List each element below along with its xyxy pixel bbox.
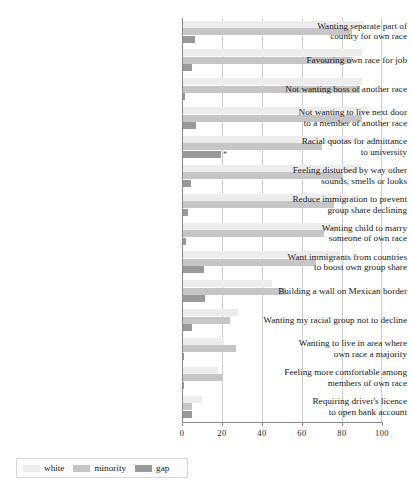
bar-white	[182, 309, 238, 316]
x-tick-label: 40	[257, 428, 266, 438]
bar-gap	[182, 64, 192, 71]
category-label: Feeling more comfortable among members o…	[235, 367, 411, 388]
bar-gap	[182, 151, 221, 158]
legend-swatch-minority-icon	[73, 465, 90, 472]
legend-item-minority: minority	[73, 463, 126, 473]
x-tick-mark	[262, 422, 263, 426]
bar-gap	[182, 180, 191, 187]
legend-item-gap: gap	[135, 463, 169, 473]
bar-gap	[182, 36, 195, 43]
bar-gap	[182, 324, 192, 331]
category-label: Favouring own race for job	[235, 55, 411, 66]
x-tick-mark	[342, 422, 343, 426]
y-axis-line	[182, 18, 183, 422]
bar-gap	[182, 295, 205, 302]
x-tick-mark	[222, 422, 223, 426]
legend-label-gap: gap	[156, 463, 169, 473]
legend: white minority gap	[16, 458, 188, 478]
bar-white	[182, 396, 202, 403]
legend-swatch-gap-icon	[135, 465, 152, 472]
category-label: Racial quotas for admittance to universi…	[235, 136, 411, 157]
category-label: Not wanting boss of another race	[235, 84, 411, 95]
x-tick-label: 100	[375, 428, 389, 438]
bar-gap	[182, 122, 196, 129]
category-label: Requiring driver's licence to open bank …	[235, 396, 411, 417]
legend-label-white: white	[44, 463, 64, 473]
gridline-100	[381, 18, 382, 422]
x-tick-mark	[382, 422, 383, 426]
category-label: Wanting separate part of country for own…	[235, 21, 411, 42]
x-tick-label: 80	[337, 428, 346, 438]
bar-minority	[182, 317, 230, 324]
category-label: Not wanting to live next door to a membe…	[235, 107, 411, 128]
legend-swatch-white-icon	[23, 465, 40, 472]
bar-minority	[182, 403, 192, 410]
category-label: Wanting my racial group not to decline	[235, 315, 411, 326]
bar-minority	[182, 374, 222, 381]
bar-gap	[182, 266, 204, 273]
legend-label-minority: minority	[94, 463, 126, 473]
bar-white	[182, 367, 218, 374]
category-label: Wanting to live in area where own race a…	[235, 338, 411, 359]
legend-item-white: white	[23, 463, 64, 473]
significance-marker: *	[223, 151, 227, 158]
bar-minority	[182, 345, 236, 352]
x-tick-label: 20	[217, 428, 226, 438]
x-tick-mark	[182, 422, 183, 426]
plot-area: *	[182, 18, 382, 422]
x-tick-label: 0	[180, 428, 185, 438]
category-label: Feeling disturbed by way other sounds, s…	[235, 165, 411, 186]
horizontal-bar-chart: * 020406080100 Wanting separate part of …	[0, 0, 411, 488]
x-tick-label: 60	[297, 428, 306, 438]
x-axis-line	[182, 422, 382, 423]
bar-white	[182, 338, 224, 345]
category-label: Want immigrants from countries to boost …	[235, 252, 411, 273]
category-label: Reduce immigration to prevent group shar…	[235, 194, 411, 215]
category-label: Wanting child to marry someone of own ra…	[235, 223, 411, 244]
bar-gap	[182, 411, 192, 418]
x-tick-mark	[302, 422, 303, 426]
category-label: Building a wall on Mexican border	[235, 286, 411, 297]
